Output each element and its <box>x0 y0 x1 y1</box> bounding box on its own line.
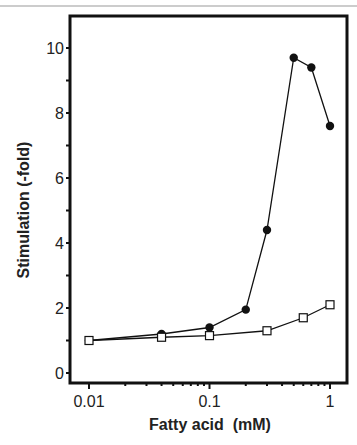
x-tick-label: 1 <box>326 393 335 410</box>
data-point-circle <box>290 54 298 62</box>
series-filled-circle <box>85 54 334 345</box>
x-tick-label: 0.1 <box>198 393 220 410</box>
data-point-square <box>158 333 166 341</box>
y-tick-label: 0 <box>55 365 64 382</box>
data-point-circle <box>205 323 213 331</box>
x-tick-label: 0.01 <box>73 393 104 410</box>
data-point-circle <box>326 122 334 130</box>
data-point-circle <box>263 226 271 234</box>
data-point-square <box>326 301 334 309</box>
x-axis-label: Fatty acid (mM) <box>149 416 271 433</box>
y-axis-ticks: 0246810 <box>46 40 70 382</box>
y-axis-label: Stimulation (-fold) <box>15 142 32 279</box>
x-axis-ticks: 0.010.11 <box>73 383 334 410</box>
data-series <box>85 54 334 345</box>
series-line <box>89 58 330 341</box>
y-tick-label: 4 <box>55 235 64 252</box>
data-point-square <box>263 327 271 335</box>
data-point-square <box>85 337 93 345</box>
y-tick-label: 10 <box>46 40 64 57</box>
data-point-circle <box>307 63 315 71</box>
data-point-square <box>206 332 214 340</box>
data-point-square <box>299 314 307 322</box>
y-tick-label: 8 <box>55 105 64 122</box>
y-tick-label: 2 <box>55 300 64 317</box>
chart: 0246810 0.010.11 Stimulation (-fold) Fat… <box>0 0 357 445</box>
y-tick-label: 6 <box>55 170 64 187</box>
data-point-circle <box>242 305 250 313</box>
